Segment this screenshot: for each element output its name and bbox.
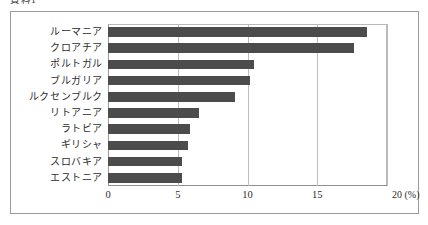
bar-row [108, 73, 387, 89]
bar [108, 124, 190, 134]
x-tick-label: 15 [312, 189, 323, 200]
bar [108, 92, 235, 102]
figure-caption: 資料1 [10, 0, 36, 4]
bar-row [108, 24, 387, 40]
bar [108, 27, 367, 37]
category-label: エストニア [50, 170, 103, 186]
x-tick-label: 0 [105, 189, 110, 200]
category-label: スロバキア [50, 154, 103, 170]
bar [108, 141, 188, 151]
category-label: ルーマニア [50, 24, 103, 40]
category-label: ラトビア [61, 121, 103, 137]
bar-row [108, 105, 387, 121]
bar [108, 76, 250, 86]
bar-row [108, 56, 387, 72]
gridline-20 [387, 24, 388, 186]
bar [108, 108, 199, 118]
category-label: ブルガリア [50, 73, 103, 89]
category-label: ギリシャ [61, 137, 103, 153]
bar [108, 43, 354, 53]
chart-figure: 資料1 ルーマニアクロアチアポルトガルブルガリアルクセンブルクリトアニアラトビア… [0, 0, 428, 225]
x-tick-label: 5 [175, 189, 180, 200]
bar-row [108, 137, 387, 153]
bar [108, 173, 182, 183]
bar-series [108, 24, 387, 186]
bar-row [108, 154, 387, 170]
category-axis-labels: ルーマニアクロアチアポルトガルブルガリアルクセンブルクリトアニアラトビアギリシャ… [18, 24, 106, 186]
bar-row [108, 89, 387, 105]
category-label: リトアニア [50, 105, 103, 121]
bar-row [108, 40, 387, 56]
x-tick-label: 10 [242, 189, 253, 200]
category-label: ルクセンブルク [29, 89, 103, 105]
category-label: クロアチア [50, 40, 103, 56]
bar [108, 157, 182, 167]
plot-area [108, 24, 387, 186]
category-label: ポルトガル [50, 56, 103, 72]
x-axis-tick-labels: 05101520 [0, 189, 428, 205]
bar-row [108, 121, 387, 137]
bar-row [108, 170, 387, 186]
bar [108, 60, 254, 70]
x-axis-unit-label: 20 (%) [392, 189, 420, 200]
